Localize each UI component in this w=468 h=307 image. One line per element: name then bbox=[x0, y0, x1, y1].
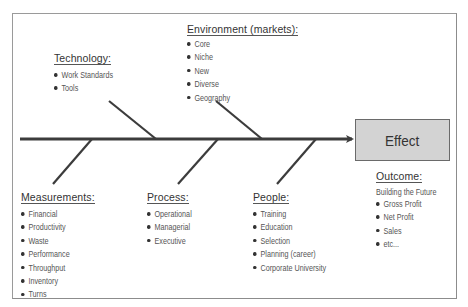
rib-measurements bbox=[53, 139, 92, 184]
bullet-icon bbox=[21, 239, 24, 243]
list-item: Performance bbox=[21, 248, 86, 261]
bullet-icon bbox=[187, 96, 190, 100]
cause-measurements: Measurements: Financial Productivity Was… bbox=[21, 187, 95, 302]
bullet-icon bbox=[21, 225, 24, 229]
cause-people: People: Training Education Selection Pla… bbox=[253, 187, 336, 275]
list-item: Executive bbox=[147, 235, 192, 248]
list-item: Work Standards bbox=[54, 69, 113, 82]
cause-items: Work Standards Tools bbox=[54, 69, 121, 96]
rib-process bbox=[178, 139, 218, 184]
list-item: Turns bbox=[21, 288, 86, 301]
list-item: Diverse bbox=[187, 78, 285, 91]
bullet-icon bbox=[21, 266, 24, 270]
bullet-icon bbox=[253, 212, 256, 216]
list-item: Tools bbox=[54, 82, 113, 95]
rib-people bbox=[277, 139, 316, 184]
bullet-icon bbox=[21, 279, 24, 283]
list-item: Net Profit bbox=[376, 211, 436, 224]
list-item: Inventory bbox=[21, 275, 86, 288]
cause-title: Technology: bbox=[54, 52, 111, 65]
bullet-icon bbox=[147, 239, 150, 243]
bullet-icon bbox=[253, 239, 256, 243]
bullet-icon bbox=[376, 202, 379, 206]
bullet-icon bbox=[187, 69, 190, 73]
outcome-items: Gross Profit Net Profit Sales etc... bbox=[376, 198, 445, 252]
cause-title: Measurements: bbox=[21, 191, 95, 204]
list-item: New bbox=[187, 65, 285, 78]
cause-title: People: bbox=[253, 191, 289, 204]
bullet-icon bbox=[21, 252, 24, 256]
cause-items: Training Education Selection Planning (c… bbox=[253, 208, 336, 275]
bullet-icon bbox=[253, 225, 256, 229]
list-item: Operational bbox=[147, 208, 192, 221]
effect-box: Effect bbox=[355, 119, 450, 161]
bullet-icon bbox=[187, 82, 190, 86]
bullet-icon bbox=[54, 86, 57, 90]
list-item: Corporate University bbox=[253, 262, 326, 275]
bullet-icon bbox=[21, 212, 24, 216]
list-item: Core bbox=[187, 38, 285, 51]
list-item: Geography bbox=[187, 92, 285, 105]
cause-items: Financial Productivity Waste Performance… bbox=[21, 208, 95, 302]
list-item: Training bbox=[253, 208, 326, 221]
list-item: Financial bbox=[21, 208, 86, 221]
cause-technology: Technology: Work Standards Tools bbox=[54, 48, 121, 96]
bullet-icon bbox=[253, 252, 256, 256]
bullet-icon bbox=[21, 293, 24, 297]
effect-label: Effect bbox=[385, 132, 419, 149]
bullet-icon bbox=[376, 229, 379, 233]
rib-environment bbox=[216, 101, 262, 139]
bullet-icon bbox=[147, 225, 150, 229]
bullet-icon bbox=[187, 55, 190, 59]
list-item: Planning (career) bbox=[253, 248, 326, 261]
rib-technology bbox=[109, 101, 156, 139]
list-item: Managerial bbox=[147, 221, 192, 234]
outcome-title: Outcome: bbox=[376, 170, 422, 183]
bullet-icon bbox=[187, 42, 190, 46]
cause-title: Process: bbox=[147, 191, 189, 204]
bullet-icon bbox=[54, 73, 57, 77]
list-item: Education bbox=[253, 221, 326, 234]
cause-title: Environment (markets): bbox=[187, 23, 298, 36]
cause-items: Core Niche New Diverse Geography bbox=[187, 38, 298, 105]
bullet-icon bbox=[147, 212, 150, 216]
list-item: Sales bbox=[376, 225, 436, 238]
bullet-icon bbox=[253, 266, 256, 270]
cause-environment: Environment (markets): Core Niche New Di… bbox=[187, 19, 298, 105]
list-item: Gross Profit bbox=[376, 198, 436, 211]
bullet-icon bbox=[376, 215, 379, 219]
bullet-icon bbox=[376, 242, 379, 246]
list-item: Niche bbox=[187, 51, 285, 64]
cause-items: Operational Managerial Executive bbox=[147, 208, 198, 248]
outcome-subtitle: Building the Future bbox=[376, 188, 436, 197]
list-item: Throughput bbox=[21, 262, 86, 275]
outcome: Outcome: Building the Future Gross Profi… bbox=[376, 166, 445, 252]
list-item: Selection bbox=[253, 235, 326, 248]
cause-process: Process: Operational Managerial Executiv… bbox=[147, 187, 198, 248]
list-item: Waste bbox=[21, 235, 86, 248]
list-item: Productivity bbox=[21, 221, 86, 234]
list-item: etc... bbox=[376, 238, 436, 251]
